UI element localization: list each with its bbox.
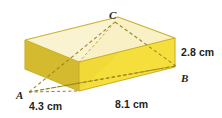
vertex-label-b: B [181, 73, 188, 84]
vertex-label-a: A [16, 90, 23, 101]
dimension-label-length: 8.1 cm [115, 99, 148, 110]
dimension-label-width: 4.3 cm [29, 101, 62, 112]
dimension-label-height: 2.8 cm [181, 47, 214, 58]
prism-figure: C A B 4.3 cm 8.1 cm 2.8 cm [0, 0, 222, 118]
vertex-label-c: C [109, 10, 116, 21]
